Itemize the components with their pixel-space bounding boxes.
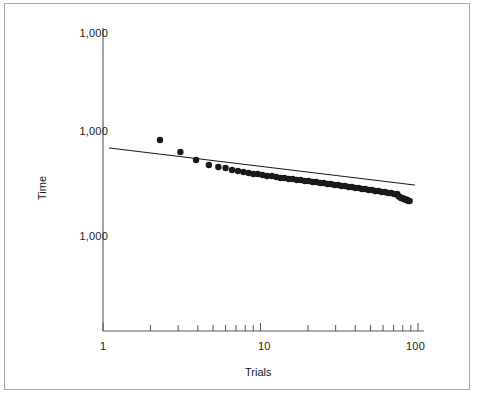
y-tick-label-1: 1,000 bbox=[58, 125, 108, 137]
x-axis-ticks bbox=[103, 323, 418, 331]
data-points bbox=[157, 137, 413, 204]
regression-line bbox=[110, 148, 415, 185]
axis-lines bbox=[103, 28, 424, 331]
x-tick-label-10: 10 bbox=[258, 340, 271, 352]
chart-figure: 1,000 1,000 1,000 1 10 100 Trials Time bbox=[0, 0, 478, 399]
y-tick-label-2: 1,000 bbox=[58, 230, 108, 242]
y-axis-title: Time bbox=[36, 176, 48, 200]
x-tick-label-1: 1 bbox=[100, 340, 106, 352]
x-axis-title: Trials bbox=[245, 366, 271, 378]
x-tick-label-100: 100 bbox=[406, 340, 425, 352]
y-tick-label-0: 1,000 bbox=[58, 27, 108, 39]
